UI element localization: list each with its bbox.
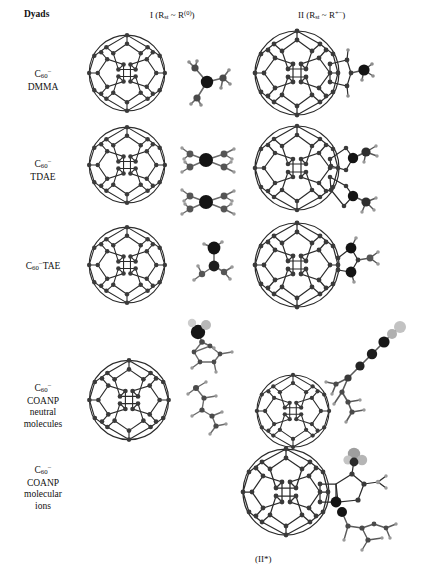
page-title: Dyads [24, 9, 49, 19]
fullerene-cage-row4-col1 [84, 355, 174, 445]
row-label-dmma: C60− DMMA [0, 66, 86, 93]
row5-sup: − [48, 464, 52, 471]
fullerene-cage-icon [84, 122, 170, 208]
row-label-tdae-line2: TDAE [0, 172, 86, 184]
row2-sub: 60 [41, 162, 48, 169]
row-label-tae: C60−TAE [0, 258, 86, 274]
column-header-one: I (Rst ~ R(0)) [150, 9, 195, 20]
row-label-tdae: C60− TDAE [0, 156, 86, 183]
column-header-two: II (Rst ~ R+−) [298, 9, 345, 20]
fullerene-adduct-icon [252, 26, 382, 120]
row4-sup: − [48, 382, 52, 389]
tdae-molecule-icon [176, 140, 246, 228]
row-label-coanp-ions-line3: molecular [0, 489, 86, 501]
fullerene-adduct-row1-col2 [252, 26, 382, 120]
fullerene-adduct-row3-col2 [252, 218, 382, 312]
fullerene-adduct-icon [252, 218, 382, 312]
row-label-coanp-ions: C60− COANP molecular ions [0, 462, 86, 512]
dmma-molecule-icon [183, 58, 241, 110]
column-one-open: (R [153, 10, 164, 20]
row-label-dmma-line2: DMMA [0, 82, 86, 94]
row-label-coanp-ions-line4: ions [0, 501, 86, 513]
row-label-coanp-neutral: C60− COANP neutral molecules [0, 380, 86, 430]
fullerene-cage-icon [84, 222, 170, 308]
row1-sup: − [48, 68, 52, 75]
fullerene-cage-row1-col1 [84, 30, 170, 116]
row-label-coanp-ions-line1: C60− [0, 462, 86, 478]
column-two-tilde: ~ R [320, 10, 335, 20]
fullerene-cage-icon [84, 30, 170, 116]
row-label-coanp-neutral-line1: C60− [0, 380, 86, 396]
row5-sub: 60 [41, 468, 48, 475]
row-label-coanp-ions-line2: COANP [0, 478, 86, 490]
column-two-open: (R [304, 10, 315, 20]
row4-sub: 60 [41, 386, 48, 393]
fullerene-cage-icon [84, 355, 174, 445]
row3-sub: 60 [32, 264, 39, 271]
row-label-tae-line1: C60−TAE [0, 258, 86, 274]
row-label-coanp-neutral-line3: neutral [0, 407, 86, 419]
column-one-close: ) [192, 10, 195, 20]
row2-sup: − [48, 158, 52, 165]
row1-sub: 60 [41, 72, 48, 79]
dyads-figure: Dyads I (Rst ~ R(0)) II (Rst ~ R+−) C60−… [0, 0, 427, 583]
coanp-neutral-icon [180, 318, 252, 436]
coanp-chain-row4-col2 [322, 320, 422, 430]
dmma-molecule-row1 [183, 58, 241, 110]
row-label-dmma-line1: C60− [0, 66, 86, 82]
fullerene-adduct-double-icon [252, 118, 387, 222]
fullerene-adduct-double-row2-col2 [252, 118, 387, 222]
coanp-ion-adduct-icon [238, 440, 414, 552]
tae-molecule-icon [186, 236, 242, 298]
row3-tae: TAE [43, 261, 61, 271]
coanp-neutral-row4 [180, 318, 252, 436]
column-one-tilde: ~ R [169, 10, 184, 20]
fullerene-cage-row2-col1 [84, 122, 170, 208]
row-label-coanp-neutral-line2: COANP [0, 396, 86, 408]
row-label-coanp-neutral-line4: molecules [0, 419, 86, 431]
figure-footer-note: (II*) [255, 554, 272, 564]
coanp-chain-icon [322, 320, 422, 430]
fullerene-cage-row3-col1 [84, 222, 170, 308]
row-label-tdae-line1: C60− [0, 156, 86, 172]
coanp-ion-adduct-row5-col2 [238, 440, 414, 552]
column-one-sup: (0) [184, 9, 192, 16]
tae-molecule-row3 [186, 236, 242, 298]
tdae-molecule-pair-row2 [176, 140, 246, 228]
column-two-close: ) [342, 10, 345, 20]
